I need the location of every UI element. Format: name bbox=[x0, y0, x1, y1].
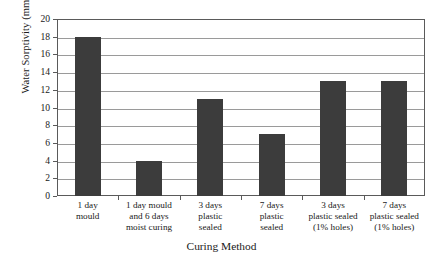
bar bbox=[136, 161, 162, 196]
y-axis-tick-label: 18 bbox=[28, 32, 50, 42]
x-axis-category-label-line: (1% holes) bbox=[353, 222, 435, 233]
y-axis-tick-label: 8 bbox=[28, 120, 50, 130]
bar bbox=[197, 99, 223, 196]
x-axis-category-label-line: plastic sealed bbox=[353, 211, 435, 222]
bar bbox=[75, 37, 101, 196]
x-axis-category-label: 7 daysplastic sealed(1% holes) bbox=[353, 200, 435, 234]
y-axis-tick-label: 14 bbox=[28, 67, 50, 77]
x-axis-category-label-line: 7 days bbox=[353, 200, 435, 211]
x-axis-title: Curing Method bbox=[0, 240, 443, 252]
y-axis-tick-mark bbox=[53, 196, 57, 197]
y-axis-tick-label: 10 bbox=[28, 103, 50, 113]
y-axis-tick-label: 4 bbox=[28, 156, 50, 166]
bar bbox=[259, 134, 285, 196]
y-axis-tick-label: 6 bbox=[28, 138, 50, 148]
y-axis-tick-label: 20 bbox=[28, 14, 50, 24]
bar bbox=[320, 81, 346, 196]
y-axis-tick-label: 16 bbox=[28, 49, 50, 59]
bar-series bbox=[57, 19, 425, 196]
y-axis-tick-label: 2 bbox=[28, 173, 50, 183]
bar bbox=[381, 81, 407, 196]
y-axis-tick-label: 12 bbox=[28, 85, 50, 95]
bar-chart: Water Sorptivity (mm/h0.5) 0246810121416… bbox=[0, 0, 443, 262]
